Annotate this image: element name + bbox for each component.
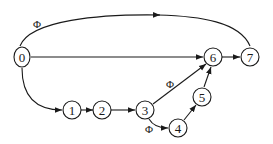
node-label-5: 5: [199, 90, 206, 105]
node-7: 7: [241, 48, 259, 66]
node-2: 2: [93, 101, 111, 119]
edge-4-5: [184, 105, 196, 120]
edge-5-6: [204, 67, 211, 87]
node-label-0: 0: [19, 50, 26, 65]
node-label-4: 4: [175, 121, 182, 136]
graph-canvas: Φ Φ Φ 0 1 2 3 4 5 6: [0, 0, 273, 144]
edge-label-0-7: Φ: [33, 18, 41, 30]
node-label-3: 3: [142, 103, 149, 118]
node-3: 3: [136, 101, 154, 119]
edge-0-7-tail: [158, 15, 250, 46]
node-6: 6: [204, 48, 222, 66]
node-label-1: 1: [69, 103, 76, 118]
edge-0-1: [22, 68, 62, 110]
node-label-2: 2: [99, 103, 106, 118]
node-0: 0: [14, 47, 30, 67]
node-5: 5: [193, 88, 211, 106]
edge-label-3-4: Φ: [145, 123, 153, 135]
node-label-6: 6: [210, 50, 217, 65]
node-label-7: 7: [247, 50, 254, 65]
edge-label-3-6: Φ: [166, 78, 174, 90]
node-4: 4: [169, 119, 187, 137]
node-1: 1: [63, 101, 81, 119]
